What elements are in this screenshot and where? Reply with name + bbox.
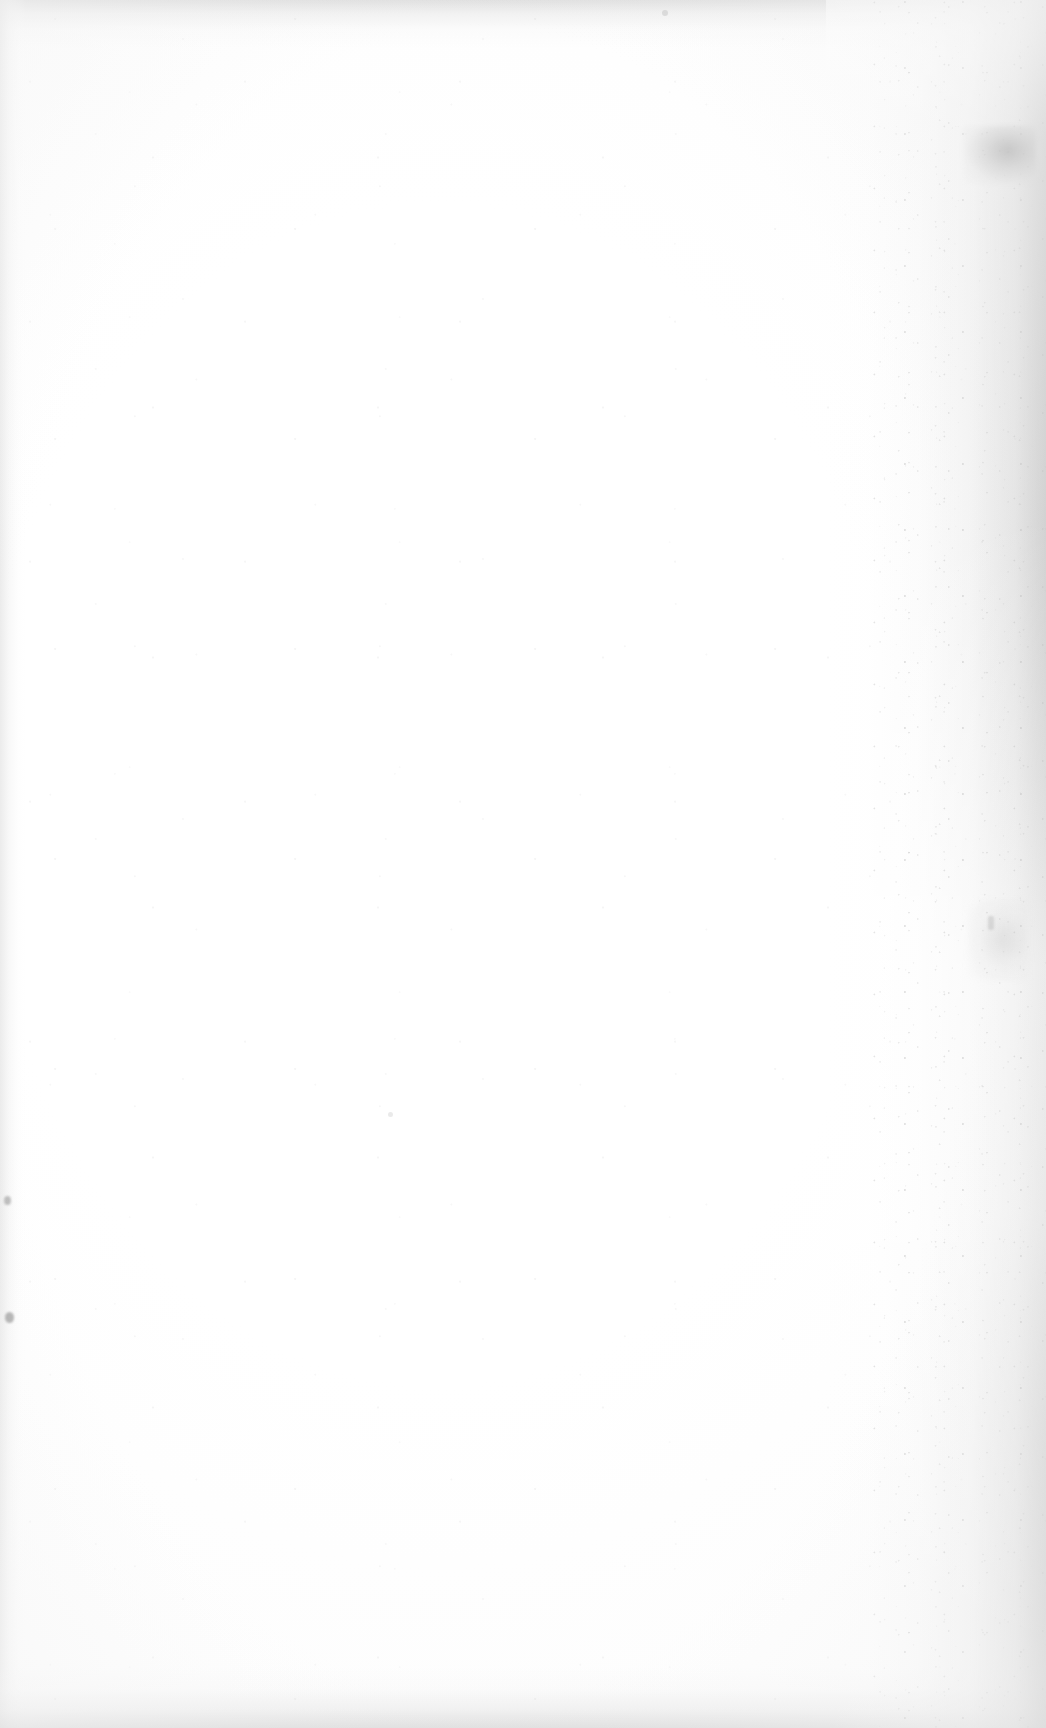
scanned-page <box>0 0 1046 1728</box>
page-content-area <box>96 120 906 1598</box>
